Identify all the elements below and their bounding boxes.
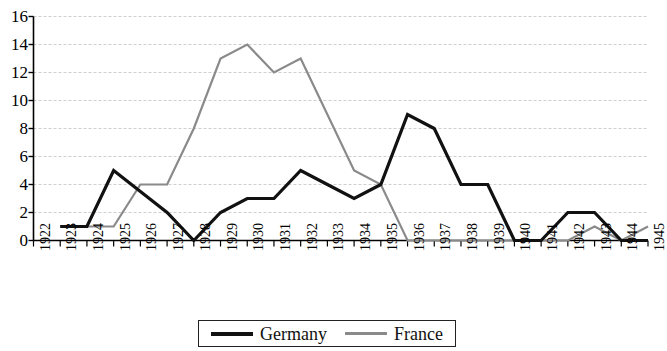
x-tick-label: 1932 xyxy=(306,223,320,251)
x-tick-label: 1942 xyxy=(573,223,587,251)
x-tick-label: 1924 xyxy=(92,223,106,251)
y-tick-label: 4 xyxy=(2,176,28,193)
x-tick-label: 1936 xyxy=(413,223,427,251)
legend-swatch-france xyxy=(345,332,387,335)
y-tick-label: 10 xyxy=(2,92,28,109)
y-tick-label: 16 xyxy=(2,8,28,25)
x-tick-label: 1939 xyxy=(493,223,507,251)
x-tick-label: 1927 xyxy=(172,223,186,251)
legend-item-france: France xyxy=(345,325,443,343)
x-tick-label: 1923 xyxy=(65,223,79,251)
gridlines xyxy=(34,17,649,213)
y-tick-label: 0 xyxy=(2,232,28,249)
y-tick-label: 6 xyxy=(2,148,28,165)
x-tick-label: 1925 xyxy=(119,223,133,251)
series-line-france xyxy=(60,45,648,241)
x-tick-label: 1928 xyxy=(199,223,213,251)
x-tick-label: 1933 xyxy=(332,223,346,251)
x-tick-label: 1929 xyxy=(226,223,240,251)
x-tick-label: 1941 xyxy=(546,223,560,251)
x-tick-label: 1935 xyxy=(386,223,400,251)
y-tick-label: 14 xyxy=(2,36,28,53)
legend-swatch-germany xyxy=(211,332,253,336)
x-tick-label: 1934 xyxy=(359,223,373,251)
x-tick-label: 1944 xyxy=(626,223,640,251)
x-tick-label: 1945 xyxy=(653,223,667,251)
y-tick-label: 2 xyxy=(2,204,28,221)
x-tick-label: 1931 xyxy=(279,223,293,251)
series-line-germany xyxy=(60,115,648,241)
x-tick-label: 1922 xyxy=(39,223,53,251)
chart-legend: Germany France xyxy=(198,320,456,347)
x-tick-label: 1940 xyxy=(519,223,533,251)
legend-label-france: France xyxy=(394,325,443,343)
x-tick-label: 1926 xyxy=(145,223,159,251)
x-tick-label: 1943 xyxy=(600,223,614,251)
legend-label-germany: Germany xyxy=(260,325,327,343)
y-tick-label: 8 xyxy=(2,120,28,137)
x-tick-label: 1937 xyxy=(439,223,453,251)
legend-item-germany: Germany xyxy=(211,325,327,343)
y-tick-label: 12 xyxy=(2,64,28,81)
x-tick-label: 1938 xyxy=(466,223,480,251)
x-tick-label: 1930 xyxy=(252,223,266,251)
